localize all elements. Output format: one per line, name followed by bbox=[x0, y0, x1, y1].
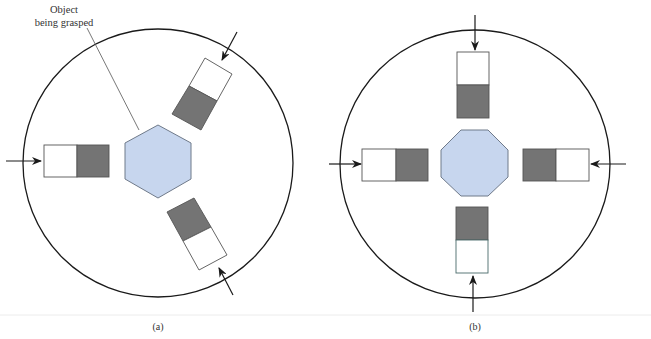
annotation-label-line2: being grasped bbox=[35, 17, 94, 28]
gripper-pad-dark bbox=[77, 145, 109, 177]
gripper-pad-dark bbox=[457, 85, 489, 118]
gripper-top-b bbox=[457, 52, 489, 118]
gripper-bottom-b bbox=[456, 207, 488, 273]
grasp-diagram: Object being grasped bbox=[0, 0, 651, 339]
gripper-upper-right-a bbox=[172, 58, 232, 130]
gripper-pad-light bbox=[457, 52, 489, 85]
gripper-pad-light bbox=[44, 145, 77, 177]
octagon-object bbox=[441, 130, 508, 196]
gripper-right-b bbox=[523, 149, 589, 181]
gripper-left-b bbox=[362, 149, 428, 181]
gripper-left-a bbox=[44, 145, 109, 177]
caption-a: (a) bbox=[152, 321, 163, 333]
gripper-pad-light bbox=[362, 149, 396, 181]
annotation-leader-line bbox=[87, 28, 139, 130]
gripper-pad-light bbox=[456, 240, 488, 273]
gripper-pad-dark bbox=[456, 207, 488, 240]
caption-b: (b) bbox=[469, 321, 481, 333]
gripper-pad-light bbox=[556, 149, 589, 181]
gripper-pad-dark bbox=[396, 149, 428, 181]
gripper-lower-right-a bbox=[167, 198, 227, 270]
panel-a: Object being grasped bbox=[6, 4, 293, 297]
panel-b bbox=[329, 15, 626, 312]
annotation-label-line1: Object bbox=[50, 4, 78, 15]
hexagon-object bbox=[125, 125, 191, 198]
gripper-pad-dark bbox=[523, 149, 556, 181]
